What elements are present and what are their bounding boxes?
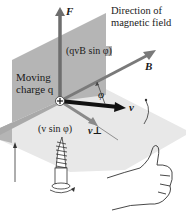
field-direction-line-2: magnetic field xyxy=(111,17,171,29)
v-perp-label: v⊥ xyxy=(88,126,102,136)
diagram-graphics xyxy=(0,0,186,216)
force-label: F xyxy=(66,6,73,17)
angle-label: φ xyxy=(98,89,104,100)
force-magnitude-label: (qvB sin φ) xyxy=(66,46,112,56)
field-direction-line-1: Direction of xyxy=(111,5,171,17)
rotation-arc-tip xyxy=(145,99,147,101)
charge-label-line-2: charge q xyxy=(16,83,53,95)
charge-label: Moving charge q xyxy=(16,71,53,95)
right-hand-rule-diagram: F Direction of magnetic field (qvB sin φ… xyxy=(0,0,186,216)
force-arrowhead xyxy=(55,7,65,16)
charge-label-line-1: Moving xyxy=(16,71,53,83)
field-label: B xyxy=(145,61,152,72)
v-perp-magnitude-label: (v sin φ) xyxy=(38,124,72,134)
field-direction-title: Direction of magnetic field xyxy=(111,5,171,29)
velocity-label: v xyxy=(129,102,134,113)
